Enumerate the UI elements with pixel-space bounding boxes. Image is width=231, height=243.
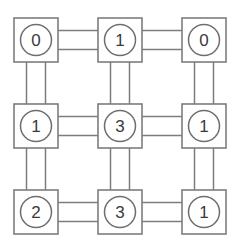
node-layer: 010131231 [14,18,226,234]
edge-vertical [111,148,130,190]
diagram-canvas: 010131231 [0,0,231,243]
node-n11[interactable]: 3 [98,104,142,148]
node-n10[interactable]: 1 [14,104,58,148]
node-label: 1 [31,117,40,136]
node-label: 1 [115,31,124,50]
edge-horizontal [58,203,98,222]
edge-horizontal [58,117,98,136]
edge-horizontal [142,31,182,50]
node-n21[interactable]: 3 [98,190,142,234]
edge-horizontal [142,117,182,136]
edge-horizontal [142,203,182,222]
edge-vertical [27,148,46,190]
node-label: 1 [199,117,208,136]
node-n22[interactable]: 1 [182,190,226,234]
node-n12[interactable]: 1 [182,104,226,148]
node-label: 3 [115,203,124,222]
node-n01[interactable]: 1 [98,18,142,62]
node-label: 1 [199,203,208,222]
edge-vertical [111,62,130,104]
edge-vertical [195,148,214,190]
node-label: 3 [115,117,124,136]
node-label: 0 [31,31,40,50]
node-label: 0 [199,31,208,50]
edge-horizontal [58,31,98,50]
edge-vertical [195,62,214,104]
edge-vertical [27,62,46,104]
node-n02[interactable]: 0 [182,18,226,62]
node-label: 2 [31,203,40,222]
node-n00[interactable]: 0 [14,18,58,62]
node-n20[interactable]: 2 [14,190,58,234]
grid-graph-diagram: 010131231 [0,0,231,243]
